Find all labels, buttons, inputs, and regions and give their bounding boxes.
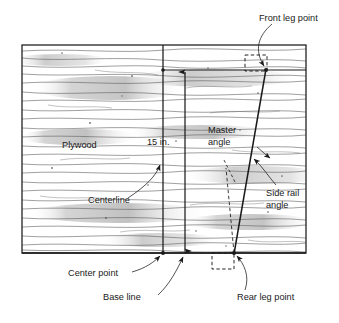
plywood-board: [10, 45, 327, 253]
leader-center-point: [132, 256, 160, 272]
label-dimension: 15 in.: [147, 137, 169, 147]
label-base-line: Base line: [103, 292, 141, 302]
leader-base-line: [158, 257, 183, 295]
front-leg-point-marker: [264, 68, 268, 72]
label-centerline: Centerline: [88, 195, 130, 205]
center-point-marker: [161, 251, 165, 255]
label-side-rail-angle-line1: Side rail: [266, 188, 299, 198]
label-side-rail-angle-line2: angle: [266, 200, 288, 210]
centerline-top-marker: [161, 68, 165, 72]
label-center-point: Center point: [68, 268, 118, 278]
rear-leg-locator-box: [212, 253, 234, 269]
label-master-angle-line1: Master: [208, 125, 236, 135]
technical-diagram: Front leg point Master angle Side rail a…: [0, 0, 339, 323]
label-plywood: Plywood: [62, 140, 97, 150]
label-rear-leg-point: Rear leg point: [237, 292, 295, 302]
leader-rear-leg-point: [237, 256, 247, 290]
label-master-angle-line2: angle: [208, 137, 230, 147]
label-front-leg-point: Front leg point: [259, 13, 318, 23]
rear-leg-point-marker: [232, 251, 236, 255]
